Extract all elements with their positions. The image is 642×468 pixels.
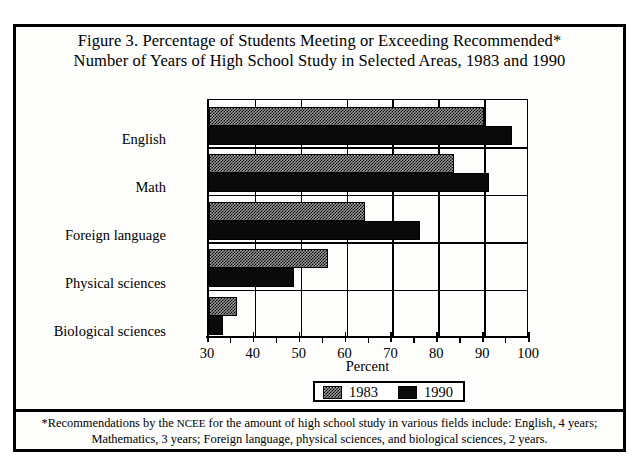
category-label-math: Math <box>0 179 166 196</box>
figure-title-line-2: Number of Years of High School Study in … <box>16 51 623 71</box>
legend-swatch-1983 <box>323 386 342 399</box>
bar-biological-sciences-1990 <box>209 316 223 335</box>
x-minor-tick-45 <box>276 338 277 343</box>
x-tick-90 <box>482 332 484 342</box>
chart-legend: 1983 1990 <box>313 381 465 402</box>
legend-label-1990: 1990 <box>424 384 453 401</box>
plot-area <box>207 99 528 336</box>
bar-physical-sciences-1983 <box>209 249 328 268</box>
footnote-line-1: *Recommendations by the NCEE for the amo… <box>26 415 613 431</box>
bar-foreign-language-1983 <box>209 202 365 221</box>
legend-swatch-1990 <box>398 386 417 399</box>
x-minor-tick-55 <box>322 338 323 343</box>
bar-group-math <box>209 152 527 194</box>
footnote-ncee: NCEE <box>177 417 206 429</box>
bar-math-1983 <box>209 154 454 173</box>
x-minor-tick-65 <box>368 338 369 343</box>
x-tick-60 <box>345 332 347 342</box>
category-label-physical-sciences: Physical sciences <box>0 275 166 292</box>
bar-group-foreign-language <box>209 200 527 242</box>
x-tick-30 <box>207 332 209 342</box>
figure-title: Figure 3. Percentage of Students Meeting… <box>16 31 623 71</box>
figure-footnote: *Recommendations by the NCEE for the amo… <box>26 415 613 447</box>
bar-group-physical-sciences <box>209 247 527 289</box>
x-axis-title: Percent <box>207 358 528 375</box>
figure-frame: Figure 3. Percentage of Students Meeting… <box>13 24 626 452</box>
category-label-foreign-language: Foreign language <box>0 227 166 244</box>
footnote-line-2: Mathematics, 3 years; Foreign language, … <box>26 431 613 447</box>
bar-biological-sciences-1983 <box>209 297 237 316</box>
x-tick-50 <box>299 332 301 342</box>
x-tick-70 <box>390 332 392 342</box>
x-axis: 30405060708090100 <box>207 336 528 337</box>
x-tick-100 <box>528 332 530 342</box>
x-tick-80 <box>436 332 438 342</box>
category-separator-3 <box>209 242 527 244</box>
x-minor-tick-35 <box>230 338 231 343</box>
footnote-text-a: *Recommendations by the <box>42 416 177 430</box>
category-separator-4 <box>209 290 527 292</box>
legend-entry-1990: 1990 <box>398 385 453 400</box>
bar-physical-sciences-1990 <box>209 268 294 287</box>
bar-english-1983 <box>209 107 484 126</box>
footnote-text-c: for the amount of high school study in v… <box>206 416 598 430</box>
x-minor-tick-85 <box>459 338 460 343</box>
footnote-separator <box>16 409 623 412</box>
bar-math-1990 <box>209 173 489 192</box>
category-label-english: English <box>0 131 166 148</box>
x-minor-tick-95 <box>505 338 506 343</box>
bar-group-english <box>209 105 527 147</box>
category-separator-2 <box>209 195 527 197</box>
legend-label-1983: 1983 <box>349 384 378 401</box>
x-tick-40 <box>253 332 255 342</box>
category-label-biological-sciences: Biological sciences <box>0 323 166 340</box>
bar-group-biological-sciences <box>209 295 527 337</box>
legend-entry-1983: 1983 <box>323 385 378 400</box>
x-minor-tick-75 <box>413 338 414 343</box>
bar-english-1990 <box>209 126 512 145</box>
figure-title-line-1: Figure 3. Percentage of Students Meeting… <box>16 31 623 51</box>
bar-foreign-language-1990 <box>209 221 420 240</box>
category-separator-1 <box>209 147 527 149</box>
